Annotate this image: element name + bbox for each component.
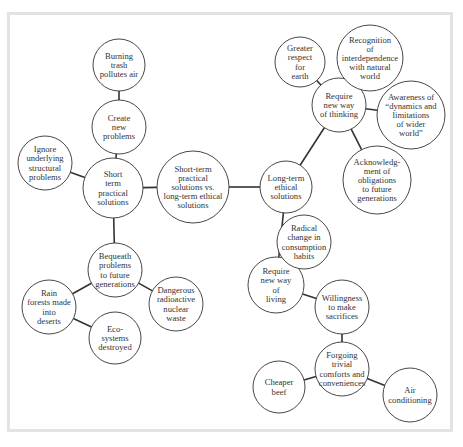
node-label-line: waste [166,313,186,323]
concept-map: Short-termpracticalsolutions vs.long-ter… [0,0,463,447]
node-label-line: generations [95,279,135,289]
edge-bequeath-to-dangerous-waste [139,283,153,291]
node-label-line: deserts [37,316,62,326]
node-bequeath: Bequeathproblemsto futuregenerations [88,243,142,297]
edge-short-term-to-ignore-underlying [70,172,85,177]
node-label-line: solutions [97,197,129,207]
node-create-new-problems: Createnewproblems [92,100,146,154]
node-acknowledgment: Acknowledg-ment ofobligationsto futurege… [343,146,411,214]
node-label-line: pollutes air [100,69,139,79]
node-recognition: Recognitionofinterdependencewith natural… [337,25,403,91]
node-center: Short-termpracticalsolutions vs.long-ter… [157,151,229,223]
node-dangerous-waste: Dangerousradioactivenuclearwaste [149,277,203,331]
node-label-line: solutions [270,191,302,201]
node-ecosystems: Eco-systemsdestroyed [89,312,141,364]
node-cheaper-beef: Cheaperbeef [253,361,305,413]
edge-short-term-to-bequeath [114,218,115,243]
node-label-line: beef [272,387,287,397]
edge-new-way-living-to-willingness [303,294,317,299]
node-long-term: Long-termethicalsolutions [260,161,312,213]
node-label-line: of thinking [320,109,359,119]
node-radical-change: Radicalchange inconsumptionhabits [277,215,331,269]
node-awareness: Awareness of“dynamics andlimitationsof w… [377,81,445,149]
node-air-conditioning: Airconditioning [383,368,437,422]
node-rain-forests: Rainforests madeintodeserts [22,280,76,334]
node-label-line: habits [294,251,315,261]
node-label-line: world [360,71,381,81]
node-label-line: conditioning [388,395,432,405]
node-label-line: world” [399,128,423,138]
node-label-line: destroyed [98,342,132,352]
edge-rain-forests-to-ecosystems [73,319,91,327]
edge-new-way-thinking-to-greater-respect [317,81,321,86]
node-label-line: earth [291,71,309,81]
node-label-line: problems [103,131,136,141]
node-label-line: solutions [177,200,209,210]
edge-new-way-thinking-to-acknowledgment [351,129,361,150]
node-label-line: conveniences [319,378,366,388]
edge-forgoing-to-cheaper-beef [304,376,316,380]
node-forgoing: Forgoingtrivialcomforts andconveniences [315,342,369,396]
node-label-line: sacrifices [326,311,359,321]
concept-nodes: Short-termpracticalsolutions vs.long-ter… [18,25,445,422]
node-short-term: Shorttermpracticalsolutions [83,158,143,218]
node-label-line: generations [357,193,397,203]
node-willingness: Willingnessto makesacrifices [315,280,369,334]
node-label-line: living [266,294,287,304]
node-burning-trash: Burningtrashpollutes air [93,39,145,91]
edge-bequeath-to-rain-forests [73,283,92,294]
node-label-line: problems [29,172,62,182]
node-ignore-underlying: Ignoreunderlyingstructuralproblems [18,136,72,190]
edge-long-term-to-new-way-thinking [300,128,324,166]
edge-forgoing-to-air-conditioning [367,379,385,386]
edge-new-way-thinking-to-awareness [366,109,378,111]
edge-short-term-to-create-new-problems [116,154,117,158]
node-greater-respect: Greaterrespectforearth [275,37,325,87]
